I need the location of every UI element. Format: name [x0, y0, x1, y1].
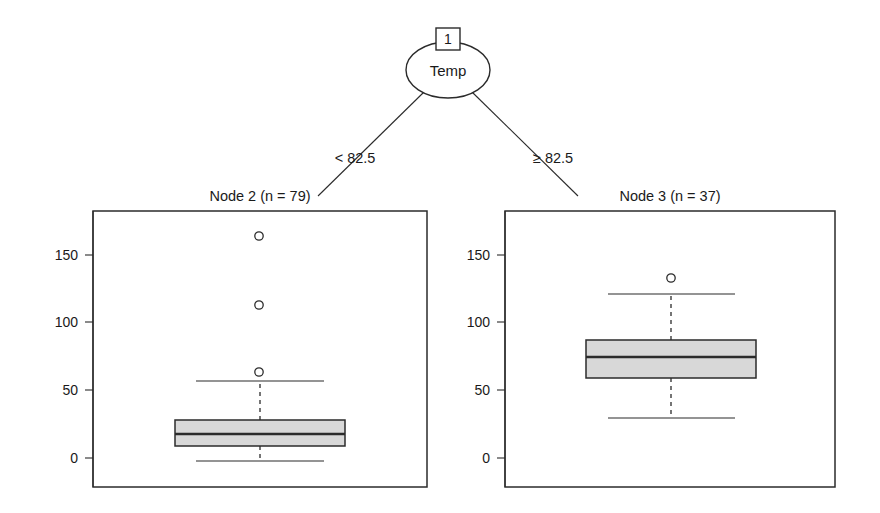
edge-group — [318, 92, 578, 196]
panel-node-2-tick-label-100: 100 — [55, 314, 79, 330]
panel-node-3-axis: 150 100 50 0 — [467, 211, 505, 487]
tree-plot-canvas: Temp 1 < 82.5 ≥ 82.5 Node 2 (n = 79) 150… — [0, 0, 880, 513]
panel-node-3-tick-label-0: 0 — [482, 450, 490, 466]
root-node[interactable]: Temp 1 — [406, 28, 490, 98]
panel-node-2-tick-label-50: 50 — [62, 382, 78, 398]
panel-node-3-tick-label-150: 150 — [467, 247, 491, 263]
panel-node-3-iqr-box — [586, 340, 756, 378]
root-node-label: Temp — [430, 62, 467, 79]
panel-node-2-axis: 150 100 50 0 — [55, 211, 93, 487]
panel-node-2-title: Node 2 (n = 79) — [209, 188, 310, 204]
panel-node-3-tick-label-100: 100 — [467, 314, 491, 330]
panel-node-3[interactable]: Node 3 (n = 37) 150 100 50 0 — [467, 188, 835, 487]
tree-diagram-svg: Temp 1 < 82.5 ≥ 82.5 Node 2 (n = 79) 150… — [0, 0, 880, 513]
panel-node-2-tick-label-0: 0 — [70, 450, 78, 466]
edge-line-left — [318, 92, 424, 196]
edge-label-right: ≥ 82.5 — [533, 150, 573, 166]
root-node-badge-label: 1 — [444, 31, 452, 47]
edge-label-left: < 82.5 — [335, 150, 376, 166]
edge-label-group: < 82.5 ≥ 82.5 — [335, 150, 573, 166]
panel-node-2[interactable]: Node 2 (n = 79) 150 100 50 0 — [55, 188, 427, 487]
panel-node-2-tick-label-150: 150 — [55, 247, 79, 263]
panel-node-3-tick-label-50: 50 — [474, 382, 490, 398]
panel-node-3-title: Node 3 (n = 37) — [619, 188, 720, 204]
edge-line-right — [472, 92, 578, 196]
